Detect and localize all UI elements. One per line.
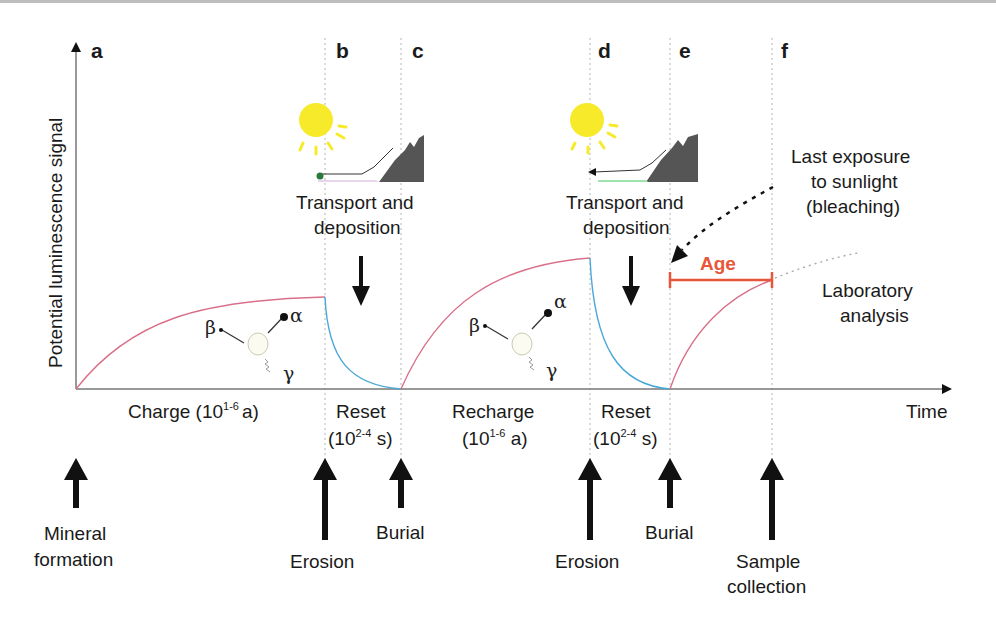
lab-note-line1: Laboratory [822, 280, 913, 301]
event-erosion-2: Erosion [555, 551, 619, 572]
bleaching-pointer-arrow [682, 187, 773, 250]
event-mineral-formation-line2: formation [34, 549, 113, 570]
radiation-dose-icon-1: β α γ [205, 304, 303, 384]
scene-2-line1: Transport and [566, 192, 684, 213]
transport-path [322, 148, 393, 174]
sun-icon [299, 103, 333, 137]
scene-1-line2: deposition [314, 217, 401, 238]
beta-symbol: β [469, 314, 480, 336]
recharge-curve [401, 258, 590, 389]
gamma-symbol: γ [283, 362, 294, 384]
phase-reset-1-line2: (102-4 s) [328, 427, 392, 449]
gamma-symbol: γ [546, 359, 557, 381]
panel-b: b [336, 39, 349, 62]
sediment-bed [318, 180, 379, 182]
panel-d: d [598, 39, 611, 62]
phase-charge: Charge (101-6a) [128, 400, 259, 422]
y-axis-label: Potential luminescence signal [45, 118, 66, 368]
bleaching-note-line3: (bleaching) [806, 196, 900, 217]
bleaching-note-line2: to sunlight [811, 171, 898, 192]
event-mineral-formation-line1: Mineral [44, 523, 106, 544]
up-arrow-erosion-2 [578, 458, 602, 540]
left-arrowhead [588, 168, 596, 176]
event-burial-2: Burial [645, 522, 694, 543]
radiation-dose-icon-2: β α γ [469, 290, 567, 381]
panel-labels: a b c d e f [91, 39, 789, 62]
up-arrow-burial-2 [658, 458, 682, 508]
up-arrow-sample-collection [760, 458, 784, 540]
age-label: Age [700, 253, 736, 274]
panel-f: f [781, 39, 789, 62]
phase-recharge-line2: (101-6 a) [462, 427, 528, 449]
mountain-icon [379, 135, 424, 182]
phase-recharge-line1: Recharge [452, 401, 534, 422]
panel-e: e [679, 39, 691, 62]
age-indicator [670, 272, 772, 288]
event-sample-collection-line1: Sample [736, 551, 800, 572]
bleaching-note-line1: Last exposure [791, 146, 910, 167]
event-burial-1: Burial [376, 522, 425, 543]
x-axis-label: Time [906, 401, 948, 422]
phase-reset-2-line2: (102-4 s) [593, 427, 657, 449]
reset-curve-1 [325, 297, 401, 389]
down-arrow-1 [352, 256, 370, 306]
alpha-symbol: α [290, 304, 303, 326]
transport-scene-2 [570, 103, 698, 182]
scene-1-line1: Transport and [296, 192, 414, 213]
up-arrow-burial-1 [389, 458, 413, 508]
scene-2-line2: deposition [583, 217, 670, 238]
transport-scene-1 [299, 103, 424, 182]
signal-curves [76, 253, 858, 389]
down-arrow-2 [622, 256, 640, 306]
event-sample-collection-line2: collection [727, 576, 806, 597]
beta-symbol: β [205, 316, 216, 338]
sediment-bed [598, 180, 648, 182]
sun-icon [570, 103, 604, 137]
lab-extension-curve [775, 253, 858, 278]
up-arrow-erosion-1 [313, 458, 337, 540]
event-erosion-1: Erosion [290, 551, 354, 572]
bleaching-pointer-head [671, 245, 688, 263]
phase-reset-1-line1: Reset [336, 401, 386, 422]
lab-note-line2: analysis [840, 305, 909, 326]
panel-a: a [91, 39, 103, 62]
luminescence-dating-diagram: Potential luminescence signal Time a b c… [0, 0, 996, 619]
panel-c: c [412, 39, 424, 62]
up-arrow-mineral-formation [64, 458, 88, 508]
burial-charge-curve [670, 280, 772, 389]
alpha-symbol: α [554, 290, 567, 312]
phase-reset-2-line1: Reset [601, 401, 651, 422]
mountain-icon [646, 134, 698, 182]
